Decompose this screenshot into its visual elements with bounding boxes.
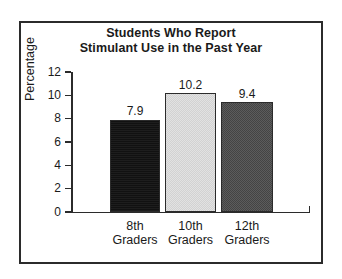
chart-figure: Students Who Report Stimulant Use in the… [0, 0, 342, 279]
y-tick-0 [65, 211, 71, 213]
x-category-label-12th-graders-line-1: 12th [204, 219, 290, 233]
chart-title: Students Who Report Stimulant Use in the… [19, 26, 323, 55]
y-tick-label-10: 10 [21, 89, 61, 101]
y-axis-line [71, 72, 73, 213]
x-category-label-12th-graders: 12th Graders [204, 219, 290, 247]
y-tick-label-12: 12 [21, 66, 61, 78]
y-tick-label-0: 0 [21, 206, 61, 218]
bar-10th-graders [165, 93, 216, 212]
x-category-label-12th-graders-line-2: Graders [204, 233, 290, 247]
y-tick-12 [65, 71, 71, 73]
chart-title-line-2: Stimulant Use in the Past Year [19, 41, 323, 56]
y-tick-4 [65, 165, 71, 167]
y-tick-10 [65, 95, 71, 97]
y-tick-label-2: 2 [21, 182, 61, 194]
chart-title-line-1: Students Who Report [19, 26, 323, 41]
y-tick-8 [65, 118, 71, 120]
bar-value-12th-graders: 9.4 [212, 88, 282, 100]
bar-8th-graders [110, 120, 160, 212]
y-tick-2 [65, 188, 71, 190]
y-tick-label-6: 6 [21, 136, 61, 148]
y-tick-6 [65, 141, 71, 143]
y-tick-label-4: 4 [21, 159, 61, 171]
x-axis-end-tick [309, 206, 311, 212]
y-tick-label-8: 8 [21, 112, 61, 124]
bar-12th-graders [221, 102, 273, 212]
bar-value-8th-graders: 7.9 [100, 105, 170, 117]
